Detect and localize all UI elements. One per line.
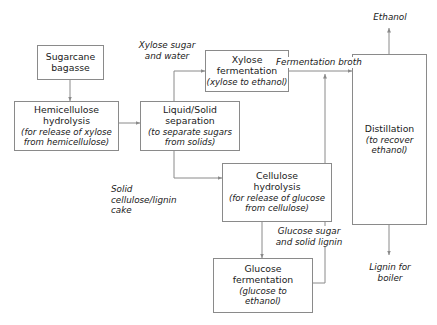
node-subtitle-line1: (xylose to ethanol): [207, 77, 288, 87]
io-label-lignin-for-boiler-output: Lignin for boiler: [353, 262, 427, 283]
node-subtitle-line1: (to recover: [366, 135, 413, 145]
edge-label-line2: cellulose/lignin: [111, 195, 187, 206]
edge-label-line3: cake: [111, 205, 187, 216]
node-title-line2: fermentation: [233, 275, 293, 286]
edge-label-line2: and solid lignin: [266, 237, 352, 248]
node-distillation[interactable]: Distillation (to recover ethanol): [352, 54, 427, 225]
node-sugarcane-bagasse[interactable]: Sugarcane bagasse: [37, 45, 104, 80]
node-cellulose-hydrolysis[interactable]: Cellulose hydrolysis (for release of glu…: [222, 163, 332, 222]
node-subtitle-line1: (for release of xylose: [21, 127, 112, 137]
node-subtitle-line2: ethanol): [245, 296, 281, 306]
flowchart-canvas: Sugarcane bagasse Hemicellulose hydrolys…: [0, 0, 437, 325]
node-title-line2: fermentation: [217, 66, 277, 77]
edge-label-line2: and water: [132, 51, 202, 62]
edge-label-fermentation-broth: Fermentation broth: [275, 57, 355, 68]
node-subtitle-line1: (to separate sugars: [148, 127, 232, 137]
node-title-line1: Sugarcane: [46, 52, 95, 63]
node-subtitle-line1: (for release of glucose: [229, 193, 325, 203]
node-title-line2: hydrolysis: [254, 182, 301, 193]
node-subtitle-line1: (glucose to: [239, 286, 287, 296]
node-title-line2: hydrolysis: [43, 116, 90, 127]
edge-label-line1: Fermentation broth: [276, 57, 354, 68]
edge-label-line1: Xylose sugar: [132, 40, 202, 51]
node-glucose-fermentation[interactable]: Glucose fermentation (glucose to ethanol…: [213, 258, 313, 313]
edge-label-solid-cellulose-lignin-cake: Solid cellulose/lignin cake: [110, 184, 188, 216]
node-title-line2: bagasse: [51, 63, 90, 74]
io-label-line1: Lignin for: [353, 262, 427, 273]
node-title-line1: Distillation: [365, 124, 415, 135]
node-subtitle-line2: from hemicellulose): [24, 137, 109, 147]
node-subtitle-line2: ethanol): [372, 145, 408, 155]
edge-label-line1: Solid: [111, 184, 187, 195]
node-liquid-solid-separation[interactable]: Liquid/Solid separation (to separate sug…: [140, 101, 240, 151]
edge-label-xylose-sugar-and-water: Xylose sugar and water: [131, 40, 203, 61]
node-subtitle-line2: from cellulose): [245, 203, 309, 213]
node-subtitle-line2: from solids): [165, 137, 216, 147]
edge-label-glucose-sugar-and-solid-lignin: Glucose sugar and solid lignin: [265, 226, 353, 247]
node-title-line2: separation: [165, 116, 215, 127]
node-hemicellulose-hydrolysis[interactable]: Hemicellulose hydrolysis (for release of…: [14, 101, 119, 151]
io-label-line1: Ethanol: [355, 12, 425, 23]
io-label-line2: boiler: [353, 273, 427, 284]
io-label-ethanol-output: Ethanol: [355, 12, 425, 23]
edge-separation-to-xylose-fermentation: [174, 71, 205, 101]
edge-label-line1: Glucose sugar: [266, 226, 352, 237]
